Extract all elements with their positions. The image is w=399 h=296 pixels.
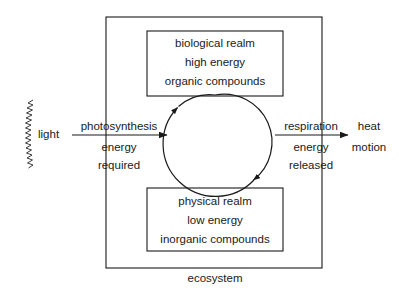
physical-realm-line3: inorganic compounds bbox=[160, 234, 269, 246]
light-wave-icon bbox=[26, 100, 34, 168]
ecosystem-energy-flow-diagram: biological realm high energy organic com… bbox=[0, 0, 399, 296]
physical-realm-line2: low energy bbox=[187, 215, 243, 227]
biological-realm-line2: high energy bbox=[185, 57, 245, 69]
respiration-released-label: released bbox=[289, 160, 333, 172]
photosynthesis-required-label: required bbox=[98, 160, 140, 172]
respiration-energy-label: energy bbox=[293, 142, 328, 154]
photosynthesis-label: photosynthesis bbox=[81, 121, 158, 133]
cycle-arrow-up bbox=[163, 108, 254, 197]
physical-realm-line1: physical realm bbox=[178, 196, 252, 208]
light-label: light bbox=[38, 129, 59, 141]
respiration-label: respiration bbox=[284, 121, 338, 133]
cycle-arrow-down bbox=[215, 94, 272, 180]
biological-realm-line3: organic compounds bbox=[165, 76, 265, 88]
output-heat-label: heat bbox=[358, 121, 380, 133]
output-motion-label: motion bbox=[352, 142, 387, 154]
biological-realm-line1: biological realm bbox=[175, 38, 255, 50]
photosynthesis-energy-label: energy bbox=[101, 142, 136, 154]
ecosystem-label: ecosystem bbox=[188, 273, 243, 285]
